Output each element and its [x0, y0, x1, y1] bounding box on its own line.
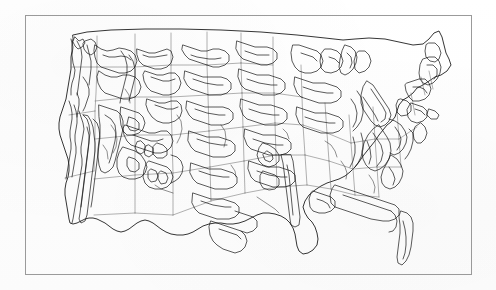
- ecoregion-layer: [66, 37, 441, 265]
- state-boundary-layer: [65, 32, 433, 215]
- figure-root: [0, 0, 496, 290]
- us-ecoregion-map: [25, 15, 472, 275]
